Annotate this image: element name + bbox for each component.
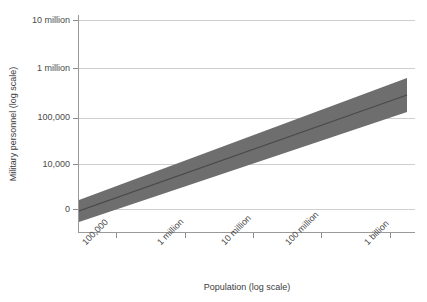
x-tick-mark-1-billion xyxy=(390,233,391,238)
x-tick-mark-100000 xyxy=(116,233,117,238)
y-tick-label-1-million: 1 million xyxy=(37,63,70,73)
x-tick-mark-1-million xyxy=(185,233,186,238)
plot-area xyxy=(79,15,415,232)
y-tick-label-10000: 10,000 xyxy=(42,159,70,169)
y-axis-title: Military personnel (log scale) xyxy=(8,49,18,199)
x-axis-line xyxy=(78,232,415,233)
y-tick-label-10-million: 10 million xyxy=(32,15,70,25)
chart-screenshot: 10 million 1 million 100,000 10,000 0 10… xyxy=(0,0,427,302)
regression-band-and-line xyxy=(79,15,415,232)
x-tick-mark-100-million xyxy=(321,233,322,238)
confidence-band xyxy=(79,78,407,222)
y-tick-label-0: 0 xyxy=(65,204,70,214)
x-axis-title: Population (log scale) xyxy=(79,282,415,292)
x-tick-mark-10-million xyxy=(253,233,254,238)
y-tick-label-100000: 100,000 xyxy=(37,112,70,122)
regression-line xyxy=(79,95,407,211)
